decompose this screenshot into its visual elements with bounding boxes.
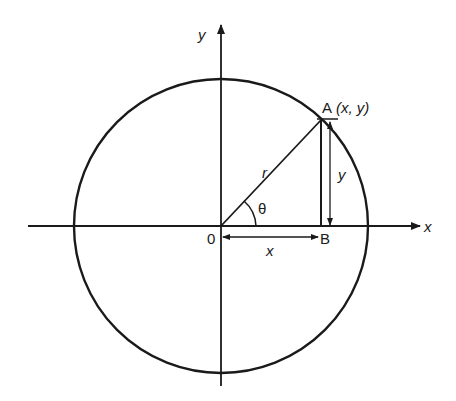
angle-arc — [244, 201, 256, 226]
y-segment-label: y — [337, 166, 347, 183]
radius-line — [221, 120, 321, 226]
y-axis-label: y — [197, 26, 207, 43]
point-a-label: A — [322, 99, 332, 116]
origin-label: 0 — [207, 230, 215, 247]
point-b-label: B — [320, 230, 330, 247]
point-a-coords: (x, y) — [336, 99, 369, 116]
angle-label: θ — [258, 200, 266, 217]
x-segment-label: x — [265, 242, 274, 259]
radius-label: r — [262, 164, 268, 181]
unit-circle-diagram: y x 0 A (x, y) B r θ x y — [0, 0, 456, 401]
x-axis-label: x — [423, 218, 432, 235]
